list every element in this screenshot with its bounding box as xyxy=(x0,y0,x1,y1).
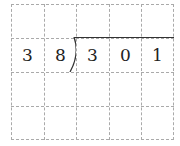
dividend-digit: 1 xyxy=(141,38,174,72)
dividend-digit: 3 xyxy=(76,38,109,72)
grid-line xyxy=(11,106,174,107)
dividend-digit: 0 xyxy=(109,38,142,72)
divisor-digit: 3 xyxy=(11,38,44,72)
divisor-digit: 8 xyxy=(44,38,77,72)
grid-line xyxy=(11,72,174,73)
